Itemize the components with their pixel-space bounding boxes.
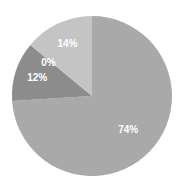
slice-label: 12% bbox=[27, 72, 47, 83]
pie-slices bbox=[12, 16, 172, 176]
slice-label: 74% bbox=[118, 124, 138, 135]
pie-chart: 74%12%0%14% bbox=[0, 0, 182, 188]
slice-label: 14% bbox=[57, 38, 77, 49]
slice-label: 0% bbox=[41, 57, 56, 68]
